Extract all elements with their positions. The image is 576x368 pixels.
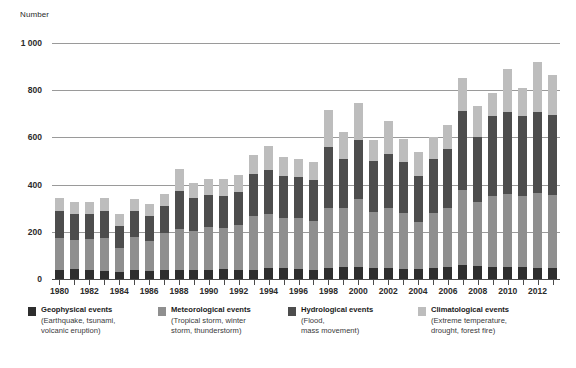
bar-segment-geophysical xyxy=(488,267,497,279)
x-axis-tick-label: 1980 xyxy=(50,286,69,296)
bar-segment-meteorological xyxy=(339,208,348,267)
bar-segment-meteorological xyxy=(369,212,378,269)
bar-1983 xyxy=(100,198,109,279)
bar-segment-meteorological xyxy=(264,214,273,268)
bar-segment-hydrological xyxy=(518,116,527,196)
bar-segment-meteorological xyxy=(175,229,184,270)
x-axis-tick xyxy=(343,279,344,285)
bar-2012 xyxy=(533,62,542,279)
bar-segment-meteorological xyxy=(503,194,512,267)
bar-1995 xyxy=(279,157,288,279)
bar-segment-hydrological xyxy=(399,162,408,213)
legend-title: Climatological events xyxy=(431,305,509,316)
bar-segment-hydrological xyxy=(369,161,378,212)
legend-text: Hydrological events(Flood,mass movement) xyxy=(301,305,373,337)
bar-segment-geophysical xyxy=(264,268,273,279)
legend-swatch-hydrological xyxy=(288,307,296,316)
bar-segment-meteorological xyxy=(488,196,497,267)
x-axis-tick xyxy=(538,279,539,285)
bar-segment-meteorological xyxy=(145,241,154,271)
x-axis-tick xyxy=(508,279,509,285)
bar-segment-climatological xyxy=(130,199,139,210)
x-axis-tick xyxy=(284,279,285,285)
legend-item-hydrological[interactable]: Hydrological events(Flood,mass movement) xyxy=(288,305,418,353)
bar-1990 xyxy=(204,179,213,279)
legend-item-meteorological[interactable]: Meteorological events(Tropical storm, wi… xyxy=(158,305,288,353)
x-axis-tick-label: 2004 xyxy=(409,286,428,296)
x-axis-tick xyxy=(299,279,300,285)
bar-segment-geophysical xyxy=(249,270,258,279)
bar-1989 xyxy=(189,183,198,279)
x-axis-tick-label: 1994 xyxy=(259,286,278,296)
bar-segment-hydrological xyxy=(130,211,139,237)
bar-1987 xyxy=(160,194,169,279)
bar-segment-climatological xyxy=(160,194,169,206)
bar-segment-meteorological xyxy=(204,227,213,269)
bar-segment-climatological xyxy=(324,110,333,148)
bar-segment-meteorological xyxy=(324,208,333,268)
bar-segment-climatological xyxy=(70,202,79,213)
x-axis-tick xyxy=(358,279,359,285)
x-axis-tick xyxy=(224,279,225,285)
bar-segment-geophysical xyxy=(55,270,64,279)
x-axis-tick xyxy=(104,279,105,285)
x-axis-tick-label: 2012 xyxy=(528,286,547,296)
x-axis-tick-label: 2000 xyxy=(349,286,368,296)
legend-item-geophysical[interactable]: Geophysical events(Earthquake, tsunami,v… xyxy=(28,305,158,353)
legend-subtitle-line2: storm, thunderstorm) xyxy=(171,326,251,337)
y-axis-tick-label: 200 xyxy=(28,227,42,237)
y-axis-tick-label: 400 xyxy=(28,180,42,190)
bar-segment-climatological xyxy=(503,69,512,113)
bar-segment-meteorological xyxy=(443,208,452,267)
bar-segment-meteorological xyxy=(85,239,94,270)
legend-swatch-meteorological xyxy=(158,307,166,316)
x-axis-tick-label: 1996 xyxy=(289,286,308,296)
x-axis-tick xyxy=(89,279,90,285)
legend-title: Meteorological events xyxy=(171,305,251,316)
legend-subtitle-line2: volcanic eruption) xyxy=(41,326,115,337)
bar-segment-geophysical xyxy=(324,268,333,279)
bar-segment-hydrological xyxy=(70,214,79,240)
bar-1997 xyxy=(309,162,318,279)
bar-segment-climatological xyxy=(473,106,482,138)
bar-segment-climatological xyxy=(339,132,348,159)
legend-item-climatological[interactable]: Climatological events(Extreme temperatur… xyxy=(418,305,548,353)
x-axis-tick-label: 1988 xyxy=(170,286,189,296)
x-axis-tick-label: 1992 xyxy=(229,286,248,296)
x-axis-labels: 1980198219841986198819901992199419961998… xyxy=(0,286,576,300)
bar-segment-geophysical xyxy=(279,268,288,279)
bar-segment-meteorological xyxy=(55,238,64,270)
bar-segment-geophysical xyxy=(384,268,393,279)
bar-segment-hydrological xyxy=(145,216,154,241)
bar-series-group xyxy=(52,43,560,279)
x-axis-tick xyxy=(328,279,329,285)
bar-1988 xyxy=(175,169,184,279)
bar-segment-geophysical xyxy=(548,268,557,279)
bar-segment-climatological xyxy=(204,179,213,195)
bar-segment-climatological xyxy=(548,75,557,115)
legend-swatch-geophysical xyxy=(28,307,36,316)
bar-segment-climatological xyxy=(279,157,288,176)
bar-2013 xyxy=(548,75,557,279)
bar-segment-hydrological xyxy=(488,116,497,196)
bar-segment-geophysical xyxy=(443,267,452,279)
bar-segment-climatological xyxy=(458,78,467,111)
bar-segment-climatological xyxy=(369,140,378,161)
x-axis-tick xyxy=(388,279,389,285)
x-axis-tick xyxy=(254,279,255,285)
bar-segment-meteorological xyxy=(384,208,393,268)
bar-segment-hydrological xyxy=(204,195,213,227)
bar-segment-climatological xyxy=(85,202,94,214)
bar-2009 xyxy=(488,93,497,279)
bar-segment-hydrological xyxy=(100,211,109,238)
bar-1992 xyxy=(234,175,243,279)
legend-title: Geophysical events xyxy=(41,305,115,316)
bar-segment-climatological xyxy=(309,162,318,180)
x-axis-tick-label: 1998 xyxy=(319,286,338,296)
y-axis-labels: 02004006008001 000 xyxy=(0,43,48,279)
x-axis-tick xyxy=(448,279,449,285)
bar-segment-meteorological xyxy=(115,248,124,273)
bar-segment-hydrological xyxy=(279,176,288,218)
legend-subtitle-line1: (Flood, xyxy=(301,316,373,327)
x-axis-tick xyxy=(209,279,210,285)
